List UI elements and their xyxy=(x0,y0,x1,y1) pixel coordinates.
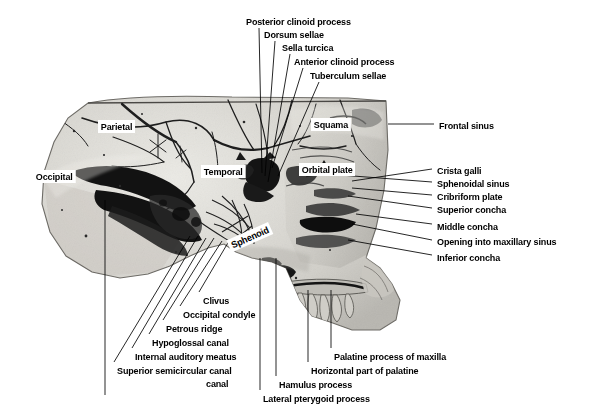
anatomy-label: Hamulus process xyxy=(279,379,352,390)
anatomy-label: Superior concha xyxy=(437,204,506,215)
anatomy-label: Dorsum sellae xyxy=(264,29,324,40)
anatomy-label: Superior semicircular canal xyxy=(117,365,232,376)
anatomy-label: Posterior clinoid process xyxy=(246,16,351,27)
anatomy-label: Tuberculum sellae xyxy=(310,70,386,81)
leader-line xyxy=(348,196,432,208)
bone-name-label: Squama xyxy=(311,118,351,131)
anatomy-label: Clivus xyxy=(203,295,229,306)
anatomy-label: Internal auditory meatus xyxy=(135,351,236,362)
anatomy-label: Horizontal part of palatine xyxy=(311,365,418,376)
bone-name-label: Occipital xyxy=(33,170,76,183)
leader-line xyxy=(199,241,229,292)
leader-line xyxy=(352,188,432,195)
anatomy-label: Opening into maxillary sinus xyxy=(437,236,556,247)
anatomy-label: canal xyxy=(206,378,228,389)
anatomy-label: Sphenoidal sinus xyxy=(437,178,509,189)
anatomy-label: Inferior concha xyxy=(437,252,500,263)
bone-name-label: Orbital plate xyxy=(299,163,356,176)
anatomy-label: Anterior clinoid process xyxy=(294,56,394,67)
skull-figure: Posterior clinoid processDorsum sellaeSe… xyxy=(0,0,593,412)
anatomy-label: Hypoglossal canal xyxy=(152,337,229,348)
leader-line xyxy=(352,224,432,240)
anatomy-label: Sella turcica xyxy=(282,42,333,53)
leader-line xyxy=(259,28,262,173)
anatomy-label: Crista galli xyxy=(437,165,481,176)
anatomy-label: Palatine process of maxilla xyxy=(334,351,446,362)
anatomy-label: Frontal sinus xyxy=(439,120,494,131)
leader-line xyxy=(356,214,432,224)
leader-line xyxy=(265,41,275,176)
leader-line xyxy=(268,54,290,182)
anatomy-label: Lateral pterygoid process xyxy=(263,393,370,404)
anatomy-label: Petrous ridge xyxy=(166,323,222,334)
anatomy-label: Cribriform plate xyxy=(437,191,502,202)
bone-name-label: Parietal xyxy=(98,120,135,133)
anatomy-label: Occipital condyle xyxy=(183,309,255,320)
leader-line xyxy=(348,240,432,255)
bone-name-label: Temporal xyxy=(201,165,246,178)
leader-line xyxy=(272,68,303,168)
anatomy-label: Middle concha xyxy=(437,221,498,232)
